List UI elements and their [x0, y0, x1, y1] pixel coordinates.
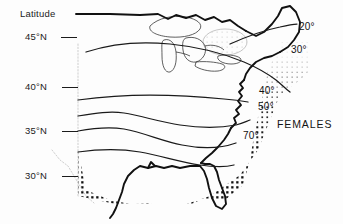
interior-borders: [52, 44, 94, 203]
contour-line-40: [78, 95, 248, 102]
stipple-shading: [70, 42, 310, 206]
contour-label-30: 30°: [291, 45, 307, 55]
latitude-tick-label-40: 40°N: [25, 82, 47, 92]
contour-label-70: 70°: [243, 131, 259, 141]
map-graphic: [0, 0, 343, 224]
contour-map-figure: Latitude 45°N 40°N 35°N 30°N 20° 30° 40°…: [0, 0, 343, 224]
latitude-tick-label-35: 35°N: [25, 126, 47, 136]
latitude-tick-mark-45: [61, 37, 77, 38]
contour-line-60: [78, 128, 236, 148]
contour-line-50: [78, 112, 250, 127]
latitude-tick-label-30: 30°N: [25, 171, 47, 181]
contour-label-20: 20°: [299, 22, 315, 32]
latitude-axis-title: Latitude: [20, 8, 55, 19]
contour-label-50: 50°: [258, 102, 274, 112]
contour-label-40: 40°: [259, 86, 275, 96]
latitude-tick-mark-35: [62, 131, 78, 132]
latitude-tick-mark-30: [62, 176, 78, 177]
latitude-tick-mark-40: [62, 87, 78, 88]
latitude-tick-label-45: 45°N: [25, 32, 47, 42]
series-label-females: FEMALES: [277, 118, 332, 130]
